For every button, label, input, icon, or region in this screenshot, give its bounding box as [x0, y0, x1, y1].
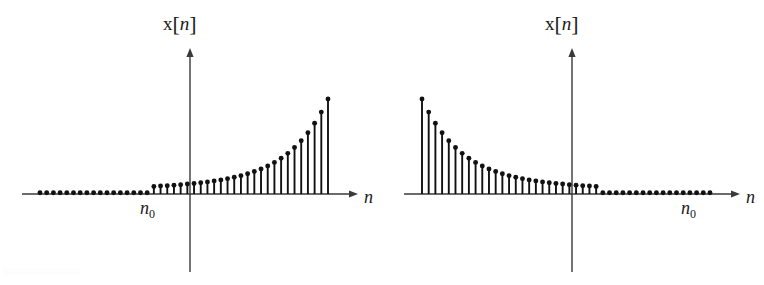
decaying-exponential-plot	[382, 0, 764, 285]
x-axis-label: n	[746, 188, 755, 206]
decaying-exponential-panel: x[n] n n0	[382, 0, 764, 285]
figure-root: x[n] n n0 x[n] n n0	[0, 0, 764, 285]
y-axis-label: x[n]	[545, 12, 579, 34]
growing-exponential-panel: x[n] n n0	[0, 0, 382, 285]
n0-annotation: n0	[140, 199, 155, 220]
y-axis-label: x[n]	[163, 12, 197, 34]
x-axis-label: n	[364, 188, 373, 206]
scan-artifact	[2, 268, 80, 275]
growing-exponential-plot	[0, 0, 382, 285]
n0-annotation: n0	[681, 199, 696, 220]
